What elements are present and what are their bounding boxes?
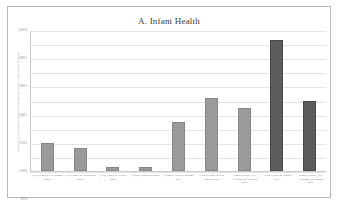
chart-title: A. Infant Health (0, 16, 338, 26)
x-axis-tick-label: (TSP) Chay & Greenstone 2003b (64, 174, 97, 185)
y-axis-label: Percent of studies finding statistically… (13, 31, 23, 172)
bar-slot (97, 31, 130, 171)
bar[interactable] (74, 148, 87, 171)
x-axis-tick-label: (PM2.5, PM10) Parkerm 2011 (163, 174, 196, 185)
x-axis-tick-label: (PM2.5, PM10, O3) Alexander & Schwab 201… (228, 174, 261, 185)
y-axis-label-text: Percent of studies finding statistically… (16, 51, 20, 152)
x-axis-tick-label: (CO) Currie & Neidell 2005 (97, 174, 130, 185)
x-axis-tick-label: (PM10) Kim, Woo & Basilio 2016 (195, 174, 228, 185)
y-axis-tick-label: 140% (19, 114, 27, 117)
bar[interactable] (41, 143, 54, 171)
bar[interactable] (139, 167, 152, 171)
bar-series (31, 31, 326, 171)
x-axis-tick-label: (NO2) Currie & Walker 2011 (261, 174, 294, 185)
y-axis-tick-label: 120% (19, 142, 27, 145)
x-axis-tick-label: (NO2) Lauderdale 2001 (130, 174, 163, 185)
bar-slot (195, 31, 228, 171)
bar-slot (31, 31, 64, 171)
plot-area: 0%20%40%60%80%100%120%140%160%180%200% (30, 31, 326, 172)
x-axis-tick-label: (PM2.5, PM10, O3) Alexander & Schwab 201… (294, 174, 327, 185)
y-axis-tick-label: 180% (19, 57, 27, 60)
y-axis-tick-label: 160% (19, 86, 27, 89)
bar[interactable] (172, 122, 185, 171)
bar-slot (260, 31, 293, 171)
x-axis-labels: (TSP) Chay & Greenstone 2003a(TSP) Chay … (31, 174, 327, 185)
bar[interactable] (303, 101, 316, 172)
x-axis-tick-label: (TSP) Chay & Greenstone 2003a (31, 174, 64, 185)
figure: A. Infant Health Percent of studies find… (0, 0, 338, 210)
y-axis-tick-label: 200% (19, 29, 27, 32)
y-axis-tick-label: 80% (21, 198, 27, 201)
bar[interactable] (106, 167, 119, 171)
bar-slot (64, 31, 97, 171)
bar[interactable] (205, 98, 218, 171)
bar[interactable] (270, 40, 283, 171)
bar[interactable] (238, 108, 251, 171)
bar-slot (228, 31, 261, 171)
bar-slot (293, 31, 326, 171)
y-axis-tick-label: 100% (19, 170, 27, 173)
bar-slot (129, 31, 162, 171)
bar-slot (162, 31, 195, 171)
